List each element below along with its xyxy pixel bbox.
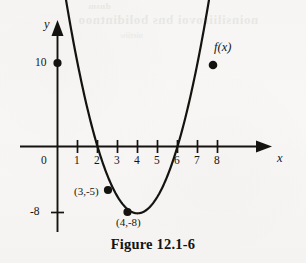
x-tick-label-6: 6 <box>174 155 180 167</box>
x-tick-label-1: 1 <box>74 155 80 167</box>
curve-function-label: f(x) <box>214 41 231 54</box>
annotation-point-4-neg8: (4,-8) <box>116 217 141 228</box>
y-axis-label: y <box>44 18 50 31</box>
point-marker-y-intercept <box>53 59 61 67</box>
y-axis-arrowhead <box>52 20 64 36</box>
origin-label: 0 <box>41 155 47 167</box>
x-tick-label-8: 8 <box>214 155 220 167</box>
parabola-plot <box>0 0 306 263</box>
x-tick-label-5: 5 <box>154 155 160 167</box>
x-tick-label-3: 3 <box>114 155 120 167</box>
y-tick-label-10: 10 <box>35 57 47 69</box>
x-tick-label-4: 4 <box>134 155 140 167</box>
figure-caption: Figure 12.1-6 <box>0 236 306 253</box>
function-curve <box>58 0 224 213</box>
x-tick-label-7: 7 <box>194 155 200 167</box>
figure-container: dnsm noinsiliirovoi bns bolidintnoo niet… <box>0 0 306 263</box>
point-marker-curve-endpoint <box>209 61 218 70</box>
point-marker-vertex-4-neg8 <box>123 208 131 216</box>
y-tick-label-neg8: -8 <box>30 206 40 218</box>
annotation-point-3-neg5: (3,-5) <box>74 186 99 197</box>
x-tick-label-2: 2 <box>94 155 100 167</box>
point-marker-3-neg5 <box>104 186 112 194</box>
x-axis-arrowhead <box>256 141 272 153</box>
x-axis-label: x <box>277 152 283 165</box>
